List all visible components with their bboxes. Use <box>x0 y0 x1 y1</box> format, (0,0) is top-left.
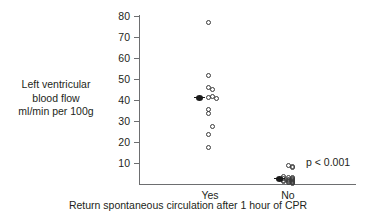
mean-marker <box>276 176 283 182</box>
data-point <box>210 124 215 129</box>
y-tick-label: 40 <box>90 95 130 106</box>
y-tick-mark <box>134 79 139 80</box>
data-point <box>206 20 211 25</box>
y-tick-label: 50 <box>90 74 130 85</box>
y-tick-label: 80 <box>90 11 130 22</box>
x-axis-title: Return spontaneous circulation after 1 h… <box>0 200 376 211</box>
mean-marker <box>196 95 203 101</box>
y-tick-mark <box>134 121 139 122</box>
y-tick-mark <box>134 163 139 164</box>
y-tick-mark <box>134 142 139 143</box>
data-point <box>210 87 215 92</box>
data-point <box>206 73 211 78</box>
y-tick-label: 30 <box>90 116 130 127</box>
y-tick-label: 20 <box>90 137 130 148</box>
y-tick-mark <box>134 37 139 38</box>
data-point <box>206 145 211 150</box>
y-tick-mark <box>134 16 139 17</box>
data-point <box>290 181 295 186</box>
y-tick-mark <box>134 58 139 59</box>
y-tick-label: 70 <box>90 32 130 43</box>
x-axis-line <box>139 184 356 185</box>
y-tick-mark <box>134 100 139 101</box>
data-point <box>214 96 219 101</box>
plot-area: 1020304050607080 p < 0.001 <box>0 0 376 211</box>
data-point <box>206 132 211 137</box>
y-axis-line <box>139 15 140 185</box>
data-point <box>206 111 211 116</box>
y-tick-label: 10 <box>90 158 130 169</box>
data-point <box>206 95 211 100</box>
data-point <box>290 165 295 170</box>
y-tick-label: 60 <box>90 53 130 64</box>
p-value-annotation: p < 0.001 <box>306 157 350 168</box>
scatter-chart: Left ventricular blood flow ml/min per 1… <box>0 0 376 211</box>
